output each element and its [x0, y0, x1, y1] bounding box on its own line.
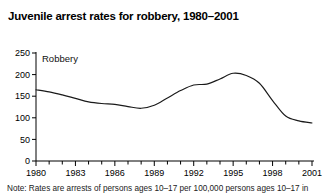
series-line-robbery — [36, 73, 312, 123]
plot-area: 050100150200250 198019831986198919921995… — [0, 40, 323, 178]
figure-container: Juvenile arrest rates for robbery, 1980–… — [0, 0, 323, 195]
y-tick-label: 200 — [15, 70, 30, 80]
y-tick-label: 250 — [15, 48, 30, 58]
line-chart-svg: 050100150200250 198019831986198919921995… — [0, 40, 323, 178]
chart-title: Juvenile arrest rates for robbery, 1980–… — [8, 10, 239, 23]
y-axis: 050100150200250 — [15, 48, 36, 166]
chart-note: Note: Rates are arrests of persons ages … — [7, 184, 323, 194]
top-rule — [0, 0, 323, 4]
x-tick-label: 1986 — [105, 168, 125, 178]
series-label-robbery: Robbery — [42, 53, 78, 64]
x-tick-label: 1992 — [184, 168, 204, 178]
x-tick-label: 1980 — [26, 168, 46, 178]
y-tick-label: 0 — [25, 156, 30, 166]
x-tick-label: 1995 — [223, 168, 243, 178]
y-tick-label: 100 — [15, 113, 30, 123]
x-tick-label: 2001 — [302, 168, 322, 178]
x-tick-label: 1998 — [263, 168, 283, 178]
y-tick-label: 150 — [15, 91, 30, 101]
x-tick-label: 1989 — [144, 168, 164, 178]
y-tick-label: 50 — [20, 135, 30, 145]
x-axis: 19801983198619891992199519982001 — [26, 161, 322, 178]
x-tick-label: 1983 — [65, 168, 85, 178]
